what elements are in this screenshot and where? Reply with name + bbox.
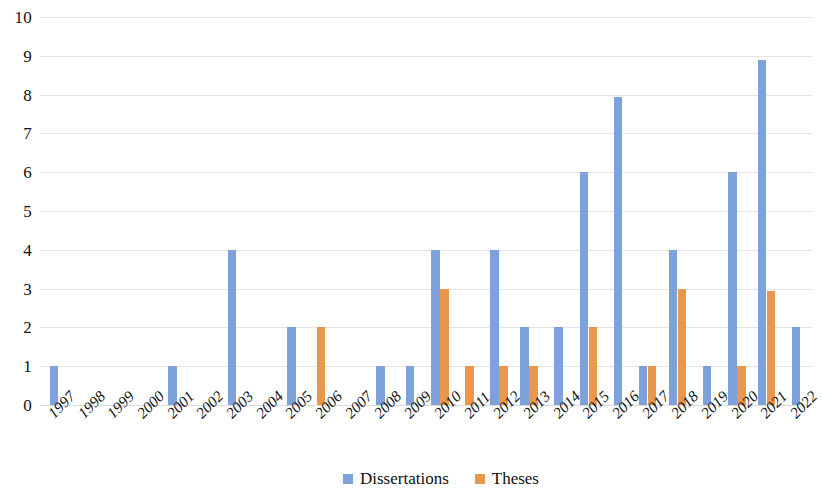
- bar-group: [723, 17, 753, 405]
- y-tick-label: 0: [0, 397, 32, 414]
- bar-theses-2010[interactable]: [440, 289, 449, 405]
- bar-group: [634, 17, 664, 405]
- bar-group: [337, 17, 367, 405]
- bar-theses-2018[interactable]: [678, 289, 687, 405]
- bar-group: [664, 17, 694, 405]
- legend-item-theses[interactable]: Theses: [475, 470, 539, 488]
- y-tick-label: 9: [0, 47, 32, 64]
- legend-label: Dissertations: [360, 470, 449, 488]
- bar-group: [574, 17, 604, 405]
- bar-group: [693, 17, 723, 405]
- bar-group: [99, 17, 129, 405]
- bar-group: [70, 17, 100, 405]
- bar-dissertations-2010[interactable]: [431, 250, 440, 405]
- bar-group: [218, 17, 248, 405]
- y-tick-label: 2: [0, 319, 32, 336]
- y-tick-label: 1: [0, 358, 32, 375]
- bar-dissertations-2020[interactable]: [728, 172, 737, 405]
- bar-group: [278, 17, 308, 405]
- legend-item-dissertations[interactable]: Dissertations: [343, 470, 449, 488]
- bar-theses-2006[interactable]: [317, 327, 326, 405]
- bar-dissertations-2014[interactable]: [554, 327, 563, 405]
- bar-group: [485, 17, 515, 405]
- bar-dissertations-2022[interactable]: [792, 327, 801, 405]
- x-axis: 1997199819992000200120022003200420052006…: [40, 406, 812, 466]
- bar-group: [129, 17, 159, 405]
- bar-chart: 012345678910 199719981999200020012002200…: [0, 0, 822, 494]
- y-tick-label: 5: [0, 203, 32, 220]
- y-tick-label: 4: [0, 241, 32, 258]
- bar-group: [367, 17, 397, 405]
- bar-group: [159, 17, 189, 405]
- bar-group: [456, 17, 486, 405]
- bars-layer: [40, 17, 812, 405]
- bar-group: [604, 17, 634, 405]
- bar-group: [782, 17, 812, 405]
- bar-dissertations-2012[interactable]: [490, 250, 499, 405]
- y-tick-label: 7: [0, 125, 32, 142]
- y-tick-label: 6: [0, 164, 32, 181]
- y-tick-label: 8: [0, 86, 32, 103]
- legend-label: Theses: [492, 470, 539, 488]
- bar-theses-2021[interactable]: [767, 291, 776, 405]
- y-tick-label: 3: [0, 280, 32, 297]
- bar-group: [545, 17, 575, 405]
- bar-group: [426, 17, 456, 405]
- bar-dissertations-2015[interactable]: [580, 172, 589, 405]
- bar-group: [515, 17, 545, 405]
- bar-group: [188, 17, 218, 405]
- bar-group: [753, 17, 783, 405]
- bar-group: [248, 17, 278, 405]
- legend-swatch-icon: [475, 474, 485, 484]
- bar-group: [307, 17, 337, 405]
- bar-dissertations-2013[interactable]: [520, 327, 529, 405]
- bar-dissertations-2021[interactable]: [758, 60, 767, 405]
- bar-group: [40, 17, 70, 405]
- bar-group: [396, 17, 426, 405]
- legend-swatch-icon: [343, 474, 353, 484]
- bar-dissertations-2018[interactable]: [669, 250, 678, 405]
- chart-legend: DissertationsTheses: [0, 470, 822, 488]
- bar-dissertations-2003[interactable]: [228, 250, 237, 405]
- y-tick-label: 10: [0, 9, 32, 26]
- bar-dissertations-2016[interactable]: [614, 97, 623, 405]
- y-axis: 012345678910: [0, 17, 32, 405]
- plot-area: [40, 17, 812, 405]
- bar-dissertations-2005[interactable]: [287, 327, 296, 405]
